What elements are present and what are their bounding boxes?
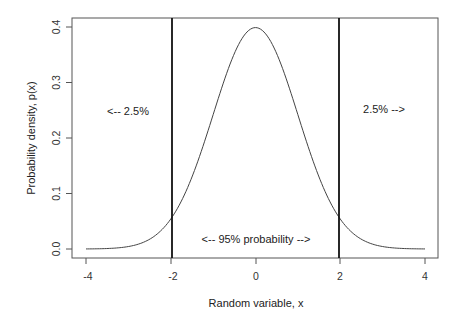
y-tick-labels: 0.0 0.1 0.2 0.3 0.4: [50, 20, 62, 257]
annotation-center: <-- 95% probability -->: [202, 233, 311, 245]
annotation-right-tail: 2.5% -->: [363, 103, 405, 115]
x-tick-0: -4: [83, 270, 92, 282]
x-tick-1: -2: [168, 270, 177, 282]
chart: 0.0 0.1 0.2 0.3 0.4 -4 -2 0 2 4 Random v…: [0, 0, 459, 322]
y-tick-1: 0.1: [50, 186, 62, 201]
x-tick-3: 2: [337, 270, 343, 282]
y-tick-0: 0.0: [50, 242, 62, 257]
plot-frame: [72, 18, 438, 258]
x-axis: [86, 258, 425, 264]
y-axis: [66, 27, 72, 249]
y-axis-label: Probability density, p(x): [25, 81, 37, 195]
annotation-left-tail: <-- 2.5%: [107, 105, 149, 117]
x-tick-2: 0: [253, 270, 259, 282]
y-tick-3: 0.3: [50, 75, 62, 90]
x-tick-labels: -4 -2 0 2 4: [83, 270, 428, 282]
x-axis-label: Random variable, x: [209, 297, 304, 309]
y-tick-2: 0.2: [50, 131, 62, 146]
density-curve: [86, 28, 425, 249]
x-tick-4: 4: [422, 270, 428, 282]
y-tick-4: 0.4: [50, 20, 62, 35]
